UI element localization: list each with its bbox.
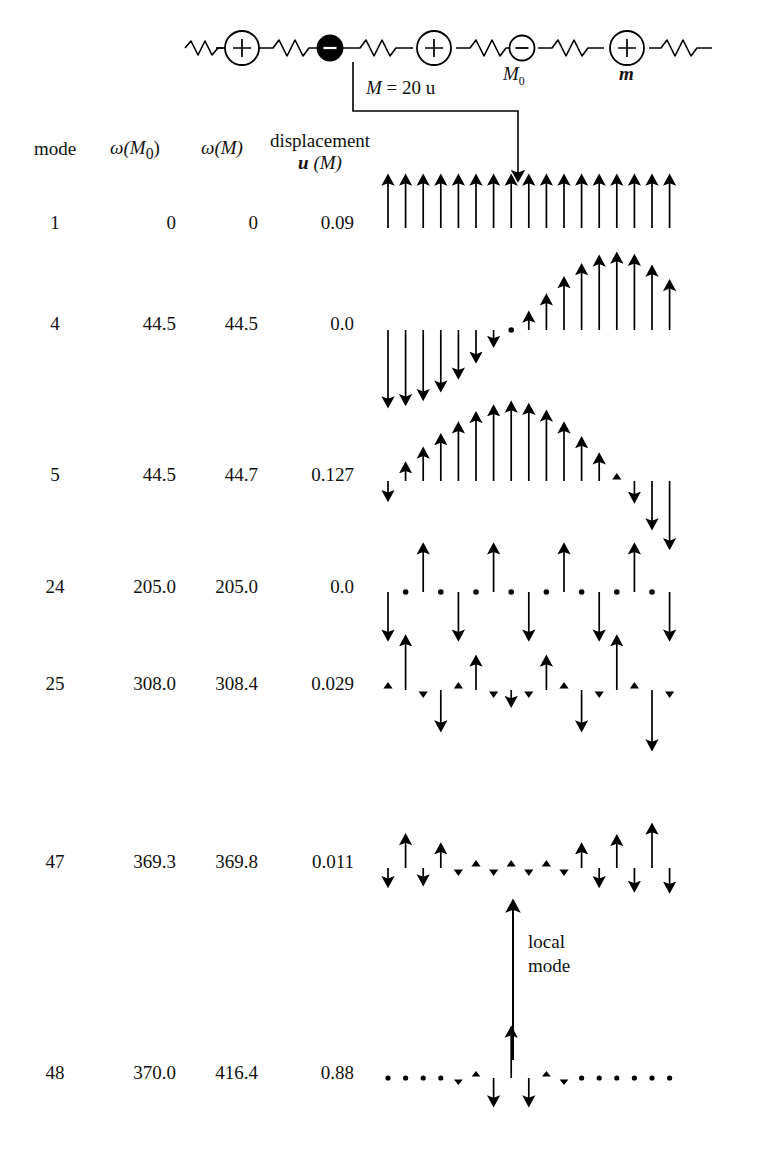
- chain-atom-cation-1: [225, 31, 259, 65]
- header-omega-M: ω(M): [186, 137, 258, 159]
- cell-displacement: 0.127: [264, 464, 354, 486]
- cell-omega-M0: 205.0: [94, 576, 176, 598]
- local-mode-line2: mode: [528, 954, 570, 978]
- header-omega-M0: ω(M0): [94, 137, 176, 163]
- local-mode-annotation: local mode: [528, 930, 570, 978]
- header-displacement-line2: u (M): [258, 152, 382, 174]
- defect-mass-label: M = 20 u: [366, 77, 435, 99]
- table-row: 24: [24, 576, 86, 598]
- cell-displacement: 0.0: [264, 576, 354, 598]
- chain-label-m: m: [619, 63, 634, 85]
- cell-omega-M: 44.7: [186, 464, 258, 486]
- chain-atom-defect: [318, 36, 343, 61]
- cell-omega-M0: 0: [94, 212, 176, 234]
- chain-atom-cation-m: [610, 31, 644, 65]
- vibrational-modes-figure: [0, 0, 768, 1149]
- cell-omega-M: 44.5: [186, 313, 258, 335]
- cell-displacement: 0.0: [264, 313, 354, 335]
- table-row: 25: [24, 673, 86, 695]
- cell-omega-M: 205.0: [186, 576, 258, 598]
- cell-omega-M: 308.4: [186, 673, 258, 695]
- cell-omega-M0: 370.0: [94, 1062, 176, 1084]
- cell-displacement: 0.09: [264, 212, 354, 234]
- cell-omega-M0: 308.0: [94, 673, 176, 695]
- chain-atom-cation-2: [417, 31, 451, 65]
- table-row: 5: [24, 464, 86, 486]
- table-row: 47: [24, 851, 86, 873]
- cell-omega-M0: 369.3: [94, 851, 176, 873]
- table-row: 4: [24, 313, 86, 335]
- table-row: 48: [24, 1062, 86, 1084]
- cell-displacement: 0.88: [264, 1062, 354, 1084]
- cell-displacement: 0.029: [264, 673, 354, 695]
- cell-displacement: 0.011: [264, 851, 354, 873]
- header-mode: mode: [24, 138, 86, 160]
- cell-omega-M0: 44.5: [94, 464, 176, 486]
- chain-label-M0: M0: [503, 63, 525, 89]
- table-row: 1: [24, 212, 86, 234]
- cell-omega-M: 369.8: [186, 851, 258, 873]
- chain-atom-anion-M0: [510, 36, 535, 61]
- cell-omega-M0: 44.5: [94, 313, 176, 335]
- header-displacement-line1: displacement: [258, 130, 382, 152]
- cell-omega-M: 0: [186, 212, 258, 234]
- cell-omega-M: 416.4: [186, 1062, 258, 1084]
- local-mode-line1: local: [528, 930, 570, 954]
